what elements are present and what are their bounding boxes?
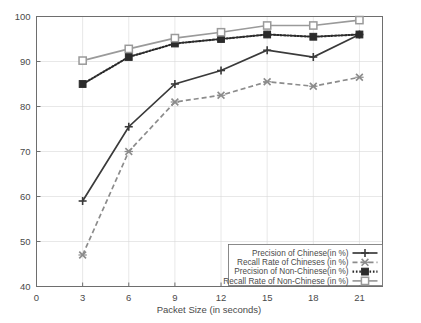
x-axis-tick-labels: 036912151821	[34, 292, 365, 303]
data-point-marker	[79, 81, 86, 88]
y-axis-tick-labels: 405060708090100	[15, 11, 31, 292]
legend-label: Precision of Non-Chinese(in %)	[234, 267, 348, 276]
data-point-marker	[218, 36, 225, 43]
y-tick-label: 40	[20, 281, 31, 292]
x-tick-label: 0	[34, 292, 39, 303]
y-tick-label: 80	[20, 101, 31, 112]
data-point-marker	[361, 277, 368, 284]
x-tick-label: 15	[262, 292, 273, 303]
x-tick-label: 3	[80, 292, 85, 303]
data-point-marker	[310, 33, 317, 40]
data-point-marker	[125, 45, 132, 52]
data-point-marker	[356, 17, 363, 24]
data-point-marker	[264, 22, 271, 29]
data-point-marker	[217, 67, 225, 75]
legend-label: Precision of Chinese(in %)	[252, 249, 349, 258]
data-point-marker	[356, 31, 363, 38]
y-tick-label: 60	[20, 191, 31, 202]
x-tick-label: 6	[126, 292, 131, 303]
data-point-marker	[264, 31, 271, 38]
data-point-marker	[171, 35, 178, 42]
data-point-marker	[217, 29, 224, 36]
data-point-marker	[263, 46, 271, 54]
x-tick-label: 9	[172, 292, 177, 303]
x-tick-label: 12	[216, 292, 227, 303]
x-tick-label: 21	[354, 292, 365, 303]
y-tick-label: 70	[20, 146, 31, 157]
chart-legend: Precision of Chinese(in %)Recall Rate of…	[223, 245, 382, 286]
data-point-marker	[79, 197, 87, 205]
x-axis-title: Packet Size (in seconds)	[157, 304, 262, 315]
y-tick-label: 90	[20, 56, 31, 67]
legend-label: Recall Rate of Non-Chinese (in %)	[223, 277, 348, 286]
data-point-marker	[125, 54, 132, 61]
data-point-marker	[310, 22, 317, 29]
data-point-marker	[309, 53, 317, 61]
line-chart: 405060708090100 036912151821 Packet Size…	[0, 0, 421, 323]
y-tick-label: 100	[15, 11, 31, 22]
data-point-marker	[362, 268, 369, 275]
chart-figure: 405060708090100 036912151821 Packet Size…	[0, 0, 421, 323]
x-tick-label: 18	[308, 292, 319, 303]
y-tick-label: 50	[20, 236, 31, 247]
data-point-marker	[79, 57, 86, 64]
legend-label: Recall Rate of Chineses (in %)	[237, 258, 349, 267]
